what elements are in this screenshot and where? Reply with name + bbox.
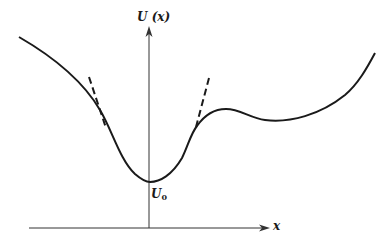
minimum-label-subscript: 0 <box>161 192 167 202</box>
minimum-label: U0 <box>151 188 167 201</box>
potential-energy-diagram: U (x) x U0 <box>0 0 390 242</box>
diagram-canvas <box>0 0 390 242</box>
y-axis-label: U (x) <box>137 11 170 23</box>
x-axis-label: x <box>273 220 280 232</box>
potential-curve <box>19 37 375 182</box>
left-tangent-dashed <box>89 77 106 128</box>
minimum-label-main: U <box>151 187 161 201</box>
